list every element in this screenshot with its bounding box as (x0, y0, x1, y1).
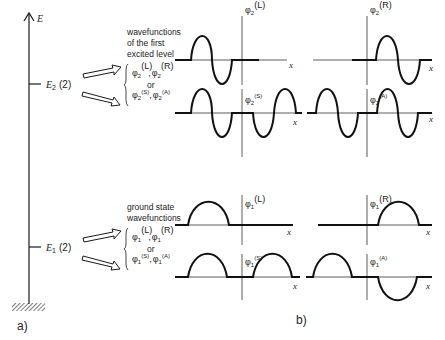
svg-text:x: x (286, 227, 291, 237)
plot-phi2-R: φ2(R) x (313, 0, 433, 85)
plot-phi2-L: φ2(L) x (175, 0, 293, 85)
svg-text:wavefunctions: wavefunctions (126, 213, 181, 223)
ground-pair-sa: φ1(S),φ1(A) (132, 253, 170, 265)
svg-text:φ1(S),φ1(A): φ1(S),φ1(A) (132, 253, 170, 265)
svg-text:ground state: ground state (127, 202, 175, 212)
plot-phi2-A: φ2(A) x (307, 89, 433, 157)
level-e1: E1(2) (29, 242, 71, 254)
svg-text:x: x (292, 117, 297, 127)
energy-axis (12, 13, 45, 311)
plot-phi2-S: φ2(S) x (175, 89, 302, 157)
excited-pair-lr: φ2(L),φ2(R) (132, 61, 173, 79)
arrow-right-icon (83, 65, 121, 78)
svg-text:x: x (425, 227, 430, 237)
svg-text:φ1(L): φ1(L) (245, 194, 265, 210)
svg-text:x: x (425, 281, 430, 291)
svg-text:wavefunctions: wavefunctions (126, 27, 181, 37)
plot-phi1-L: φ1(L) x (175, 194, 293, 245)
svg-text:x: x (288, 60, 293, 70)
svg-text:φ1(L),φ1(R): φ1(L),φ1(R) (132, 225, 173, 243)
svg-text:x: x (292, 281, 297, 291)
panel-b-label: b) (296, 313, 307, 327)
svg-text:φ1(R): φ1(R) (370, 194, 392, 210)
arrow-right-icon (83, 229, 121, 242)
svg-text:excited level: excited level (127, 49, 174, 59)
ground-caption: ground state wavefunctions (126, 202, 181, 223)
level-e2: E2(2) (29, 79, 71, 91)
plot-phi1-S: φ1(S) x (175, 254, 300, 300)
svg-text:of the first: of the first (127, 38, 165, 48)
svg-text:x: x (428, 63, 433, 73)
braces (124, 64, 128, 270)
svg-text:φ2(A): φ2(A) (370, 93, 387, 106)
plot-phi1-A: φ1(A) x (306, 254, 432, 301)
plot-phi1-R: φ1(R) x (318, 194, 432, 245)
excited-pair-sa: φ2(S),φ2(A) (132, 89, 170, 101)
svg-text:φ2(R): φ2(R) (370, 0, 392, 16)
svg-text:φ2(L): φ2(L) (245, 0, 265, 16)
double-well-diagram: E E2(2) E1(2) a) wavefunctions of the fi… (0, 0, 445, 340)
excited-caption: wavefunctions of the first excited level (126, 27, 181, 59)
hollow-arrows (82, 65, 121, 270)
arrow-right-icon (82, 92, 120, 106)
svg-text:φ1(A): φ1(A) (370, 255, 387, 268)
panel-a-label: a) (17, 319, 28, 333)
svg-text:E2(2): E2(2) (45, 79, 71, 91)
svg-text:φ2(L),φ2(R): φ2(L),φ2(R) (132, 61, 173, 79)
ground-hatch (12, 303, 45, 311)
svg-text:E1(2): E1(2) (45, 242, 71, 254)
ground-pair-lr: φ1(L),φ1(R) (132, 225, 173, 243)
energy-axis-label: E (36, 13, 43, 24)
arrow-right-icon (82, 256, 120, 270)
svg-text:φ2(S),φ2(A): φ2(S),φ2(A) (132, 89, 170, 101)
svg-text:x: x (428, 114, 433, 124)
svg-text:φ2(S): φ2(S) (245, 93, 262, 106)
